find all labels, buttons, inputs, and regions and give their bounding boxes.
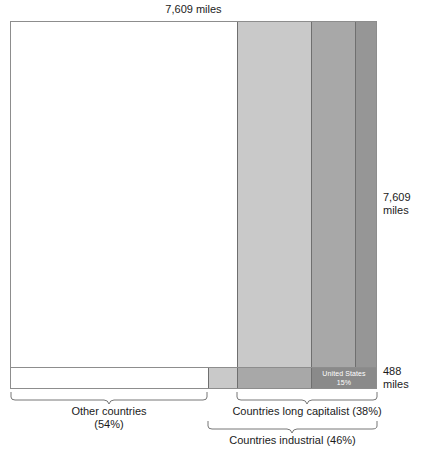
- brace-long-capitalist-line1: Countries long capitalist (38%): [200, 405, 414, 418]
- segment-other-countries-tall: [11, 22, 237, 369]
- brace-other-countries-line2: (54%): [10, 418, 208, 431]
- brace-other-countries-label: Other countries (54%): [10, 405, 208, 431]
- segment-long-capitalist-mid-tall: [311, 22, 355, 369]
- short-value-units: miles: [383, 378, 409, 391]
- short-band: United States 15%: [11, 367, 376, 388]
- segment-industrial-gap-short: [208, 368, 237, 388]
- united-states-percent: 15%: [312, 378, 376, 387]
- short-value-annotation: 488 miles: [383, 365, 409, 391]
- brace-other-countries-line1: Other countries: [10, 405, 208, 418]
- brace-industrial-label: Countries industrial (46%): [195, 434, 390, 447]
- tall-value-units: miles: [383, 204, 411, 217]
- segment-long-capitalist-light-tall: [237, 22, 311, 369]
- tall-value-annotation: 7,609 miles: [383, 191, 411, 217]
- united-states-inline-label: United States 15%: [312, 370, 376, 387]
- brace-long-capitalist-label: Countries long capitalist (38%): [200, 405, 414, 418]
- united-states-name: United States: [322, 370, 365, 377]
- mosaic-plot: United States 15%: [10, 21, 377, 389]
- short-value-number: 488: [383, 365, 409, 378]
- segment-long-capitalist-short: [237, 368, 311, 388]
- segment-united-states-short: United States 15%: [311, 368, 376, 388]
- tall-band: [11, 22, 376, 369]
- chart-canvas: 7,609 miles United States 15% 7,609: [0, 0, 428, 461]
- chart-top-title: 7,609 miles: [10, 3, 377, 15]
- segment-united-states-tall: [355, 22, 376, 369]
- segment-other-countries-short: [11, 368, 208, 388]
- brace-industrial: [207, 420, 378, 434]
- brace-other-countries: [10, 391, 208, 405]
- brace-long-capitalist: [236, 391, 378, 405]
- tall-value-number: 7,609: [383, 191, 411, 204]
- brace-industrial-line1: Countries industrial (46%): [195, 434, 390, 447]
